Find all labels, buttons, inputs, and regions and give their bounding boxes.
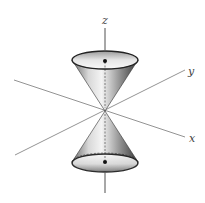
top-center-dot [103, 59, 107, 63]
y-axis-label: y [187, 65, 195, 78]
x-axis-label: x [189, 132, 196, 145]
z-axis-label: z [101, 14, 108, 27]
bottom-center-dot [103, 160, 107, 164]
double-cone-diagram: z y x [0, 0, 205, 203]
bottom-nappe [72, 111, 138, 172]
top-nappe [72, 51, 138, 111]
